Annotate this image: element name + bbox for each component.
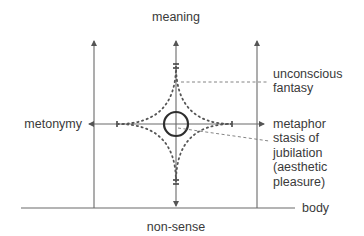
label-stasis-of: stasis of (273, 131, 319, 145)
label-fantasy: fantasy (273, 81, 314, 95)
label-aesthetic: (aesthetic (273, 160, 327, 174)
label-meaning: meaning (152, 10, 200, 24)
semiotic-diagram: meaning non-sense metonymy body unconsci… (0, 0, 364, 236)
label-body: body (302, 201, 330, 215)
stasis-leader (178, 128, 269, 141)
label-pleasure: pleasure) (273, 175, 325, 189)
label-jubilation: jubilation (272, 146, 322, 160)
label-non-sense: non-sense (147, 220, 205, 234)
label-metonymy: metonymy (24, 117, 82, 131)
label-unconscious: unconscious (273, 67, 343, 81)
label-metaphor: metaphor (273, 117, 326, 131)
